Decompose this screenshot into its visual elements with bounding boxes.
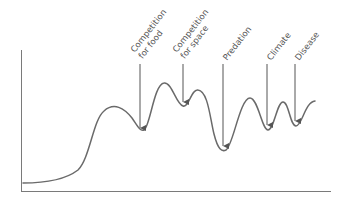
label-disease-text: Disease xyxy=(293,30,321,63)
label-disease: Disease xyxy=(293,30,321,63)
label-predation-text: Predation xyxy=(221,24,254,62)
diagram-canvas: Competition for food Competition for spa… xyxy=(0,0,345,203)
label-predation: Predation xyxy=(221,24,254,62)
population-regulation-diagram: Competition for food Competition for spa… xyxy=(0,0,345,203)
population-curve xyxy=(23,83,315,183)
label-climate-text: Climate xyxy=(265,30,293,62)
label-climate: Climate xyxy=(265,30,293,62)
label-competition-for-food: Competition for food xyxy=(128,7,176,60)
label-competition-for-space: Competition for space xyxy=(170,7,218,60)
